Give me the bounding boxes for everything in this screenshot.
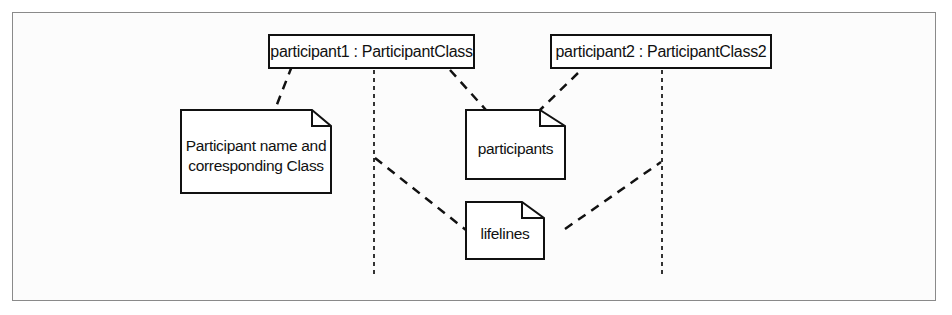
note-lifelines: lifelines: [466, 208, 544, 259]
participant1-label: participant1 : ParticipantClass: [270, 43, 472, 61]
note-lifelines-label: lifelines: [481, 224, 530, 244]
anchor-lifelines-to-lifeline1: [375, 158, 466, 230]
anchor-lifelines-to-lifeline2: [565, 162, 661, 229]
participant2-label: participant2 : ParticipantClass2: [556, 43, 767, 61]
anchor-participants-to-participant1: [450, 70, 486, 110]
anchor-participants-to-participant2: [540, 73, 578, 110]
note-participant-name: Participant name and corresponding Class: [181, 118, 331, 193]
note-participants-label: participants: [478, 139, 554, 159]
anchor-note-name-to-participant1: [274, 66, 292, 112]
participant1-box: participant1 : ParticipantClass: [268, 34, 475, 69]
note-participants: participants: [466, 118, 565, 179]
note-participant-name-line2: corresponding Class: [188, 156, 324, 176]
note-participant-name-line1: Participant name and: [186, 136, 326, 156]
participant2-box: participant2 : ParticipantClass2: [550, 34, 772, 69]
